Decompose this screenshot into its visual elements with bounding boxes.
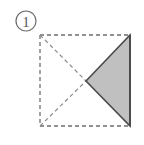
diagram-canvas: 1 [0,0,144,145]
figure-container: 1 [0,0,144,145]
step-number-label: 1 [22,14,30,30]
